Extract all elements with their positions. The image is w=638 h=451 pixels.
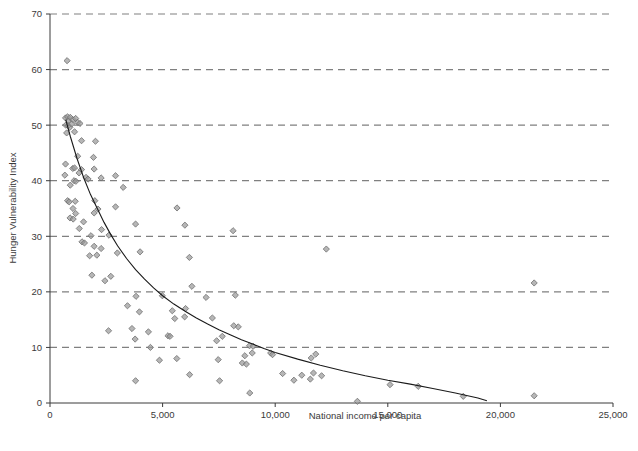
data-point [120, 184, 126, 190]
data-point [203, 294, 209, 300]
x-tick-label-0: 0 [47, 409, 52, 420]
data-point [132, 336, 138, 342]
y-axis-ticks [46, 14, 50, 403]
data-point [80, 219, 86, 225]
data-point [62, 172, 68, 178]
data-point [78, 138, 84, 144]
data-point [387, 382, 393, 388]
data-point [94, 252, 100, 258]
data-point [92, 138, 98, 144]
y-tick-label-70: 70 [31, 8, 42, 19]
data-point [91, 243, 97, 249]
data-point [67, 182, 73, 188]
data-point [156, 357, 162, 363]
x-axis-ticks [50, 403, 613, 407]
data-point [531, 280, 537, 286]
data-point [531, 393, 537, 399]
scatter-plot: 010203040506070 05,00010,00015,00020,000… [0, 0, 638, 451]
y-tick-label-40: 40 [31, 175, 42, 186]
data-point [90, 154, 96, 160]
x-axis-title: National income per capita [309, 410, 422, 421]
y-tick-label-60: 60 [31, 64, 42, 75]
x-tick-label-5000: 5,000 [151, 409, 175, 420]
y-axis-title: Hunger Vulnerability Index [7, 152, 18, 263]
y-tick-label-30: 30 [31, 231, 42, 242]
trendline [66, 120, 487, 401]
data-point [91, 166, 97, 172]
data-point [354, 398, 360, 404]
data-point [189, 283, 195, 289]
data-point [174, 355, 180, 361]
x-tick-label-25000: 25,000 [598, 409, 627, 420]
x-tick-label-20000: 20,000 [486, 409, 515, 420]
data-point [187, 372, 193, 378]
data-point [308, 355, 314, 361]
y-tick-label-0: 0 [37, 397, 42, 408]
data-point [108, 273, 114, 279]
y-tick-label-20: 20 [31, 286, 42, 297]
data-point [132, 221, 138, 227]
data-point-markers [62, 58, 538, 405]
data-point [214, 338, 220, 344]
data-point [132, 378, 138, 384]
data-point [209, 315, 215, 321]
chart-figure: 010203040506070 05,00010,00015,00020,000… [0, 0, 638, 451]
data-point [102, 278, 108, 284]
data-point [112, 204, 118, 210]
data-point [174, 205, 180, 211]
data-point [247, 390, 253, 396]
data-point [98, 245, 104, 251]
data-point [219, 333, 225, 339]
data-point [323, 246, 329, 252]
data-point [114, 250, 120, 256]
data-point [98, 175, 104, 181]
data-point [182, 314, 188, 320]
data-point [137, 249, 143, 255]
data-point [242, 353, 248, 359]
data-point [299, 372, 305, 378]
data-point [169, 308, 175, 314]
y-tick-label-50: 50 [31, 120, 42, 131]
data-point [105, 328, 111, 334]
data-point [318, 373, 324, 379]
data-point [98, 227, 104, 233]
data-point [145, 329, 151, 335]
data-point [307, 376, 313, 382]
y-tick-label-10: 10 [31, 342, 42, 353]
data-point [64, 58, 70, 64]
data-point [129, 325, 135, 331]
data-point [133, 293, 139, 299]
data-point [76, 225, 82, 231]
data-point [291, 377, 297, 383]
data-point [310, 370, 316, 376]
caption-cropped-text [0, 439, 638, 451]
data-point [249, 350, 255, 356]
x-tick-label-10000: 10,000 [261, 409, 290, 420]
data-point [88, 233, 94, 239]
data-point [230, 228, 236, 234]
data-point [182, 222, 188, 228]
data-point [147, 344, 153, 350]
data-point [87, 253, 93, 259]
data-point [313, 351, 319, 357]
data-point [186, 254, 192, 260]
data-point [232, 292, 238, 298]
data-point [112, 173, 118, 179]
data-point [72, 198, 78, 204]
data-point [215, 357, 221, 363]
axis-lines [50, 14, 613, 403]
y-axis-tick-labels: 010203040506070 [31, 8, 42, 408]
data-point [136, 309, 142, 315]
data-point [216, 378, 222, 384]
data-point [124, 303, 130, 309]
data-point [280, 370, 286, 376]
data-point [172, 315, 178, 321]
data-point [71, 129, 77, 135]
data-point [89, 272, 95, 278]
data-point [62, 161, 68, 167]
